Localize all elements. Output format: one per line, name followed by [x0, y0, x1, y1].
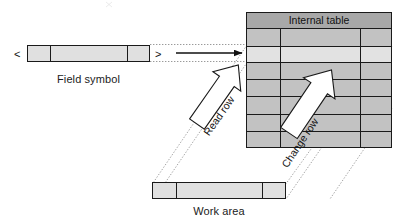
scan-artifact [106, 2, 112, 7]
work-area-bar-body [153, 183, 286, 199]
internal-table-title: Internal table [289, 14, 350, 26]
diagram-canvas: Read row Change row Internal table [0, 0, 393, 224]
work-area-bar [153, 183, 286, 199]
internal-table-diagram: Read row Change row Internal table < > F… [0, 0, 393, 224]
field-symbol-caption: Field symbol [27, 73, 150, 85]
work-area-caption: Work area [152, 205, 286, 217]
field-symbol-bar-body [28, 46, 150, 62]
internal-table-row-6 [246, 131, 392, 148]
field-symbol-bar [28, 46, 150, 62]
internal-table-row-0 [246, 28, 392, 46]
internal-table-row-1 [246, 46, 392, 62]
field-symbol-close-bracket: > [155, 48, 161, 60]
field-symbol-open-bracket: < [14, 48, 20, 60]
